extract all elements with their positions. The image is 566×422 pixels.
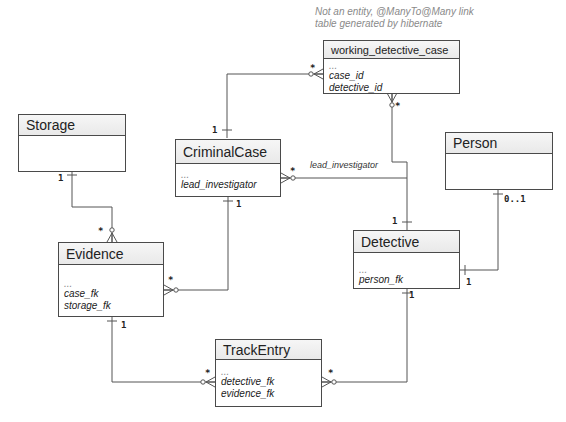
attr-ellipsis: ... [64, 279, 158, 288]
attr-ellipsis: ... [359, 265, 454, 274]
attr-case-id: case_id [329, 70, 454, 82]
entity-title: CriminalCase [176, 140, 280, 164]
cardinality-criminalcase-working-one: 1 [212, 125, 217, 135]
attr-case-fk: case_fk [64, 288, 158, 300]
cardinality-evidence-many-top: * [98, 226, 103, 236]
entity-title: Evidence [59, 243, 163, 265]
cardinality-criminalcase-many-right: * [290, 166, 295, 176]
attr-storage-fk: storage_fk [64, 300, 158, 312]
entity-track-entry[interactable]: TrackEntry ... detective_fk evidence_fk [215, 339, 322, 407]
entity-criminal-case[interactable]: CriminalCase ... lead_investigator [175, 139, 281, 197]
note-line-2: table generated by hibernate [315, 18, 474, 30]
entity-detective[interactable]: Detective ... person_fk [353, 230, 460, 289]
relation-label-lead-investigator: lead_investigator [310, 160, 378, 170]
cardinality-detective-one-top: 1 [392, 216, 397, 226]
rel-detective-trackentry [322, 289, 407, 382]
attr-person-fk: person_fk [359, 274, 454, 286]
attr-ellipsis: ... [221, 367, 316, 376]
rel-criminalcase-working [227, 74, 323, 138]
cardinality-working-many-left: * [310, 63, 315, 73]
cardinality-trackentry-many-left: * [205, 368, 210, 378]
entity-person[interactable]: Person [445, 132, 553, 190]
cardinality-storage-one: 1 [58, 173, 63, 183]
entity-title: Detective [354, 231, 459, 253]
attr-evidence-fk: evidence_fk [221, 388, 316, 400]
note-line-1: Not an entity, @ManyTo@Many link [315, 6, 474, 18]
hibernate-note: Not an entity, @ManyTo@Many link table g… [315, 6, 474, 30]
attr-lead-investigator: lead_investigator [181, 179, 275, 191]
attr-ellipsis: ... [181, 170, 275, 179]
entity-evidence[interactable]: Evidence ... case_fk storage_fk [58, 242, 164, 317]
entity-title: working_detective_case [324, 41, 459, 59]
cardinality-detective-one-bottom: 1 [409, 290, 414, 300]
cardinality-evidence-many-right: * [168, 275, 173, 285]
rel-evidence-trackentry [112, 316, 215, 382]
rel-storage-evidence [72, 171, 112, 242]
cardinality-criminalcase-one-bottom: 1 [236, 199, 241, 209]
attr-detective-id: detective_id [329, 82, 454, 94]
cardinality-working-many-bottom: * [395, 101, 400, 111]
entity-title: Person [446, 133, 552, 154]
rel-criminalcase-evidence [164, 197, 228, 290]
entity-working-detective-case[interactable]: working_detective_case ... case_id detec… [323, 40, 460, 94]
attr-ellipsis: ... [329, 61, 454, 70]
cardinality-detective-one-right: 1 [466, 277, 471, 287]
er-diagram-canvas: Not an entity, @ManyTo@Many link table g… [0, 0, 566, 422]
entity-title: Storage [19, 115, 125, 136]
cardinality-person-zero-or-one: 0..1 [504, 194, 526, 204]
cardinality-trackentry-many-right: * [328, 368, 333, 378]
rel-working-detective [392, 93, 407, 230]
entity-storage[interactable]: Storage [18, 114, 126, 172]
cardinality-evidence-one-bottom: 1 [121, 320, 126, 330]
attr-detective-fk: detective_fk [221, 376, 316, 388]
entity-title: TrackEntry [216, 340, 321, 360]
rel-person-detective [460, 189, 498, 270]
